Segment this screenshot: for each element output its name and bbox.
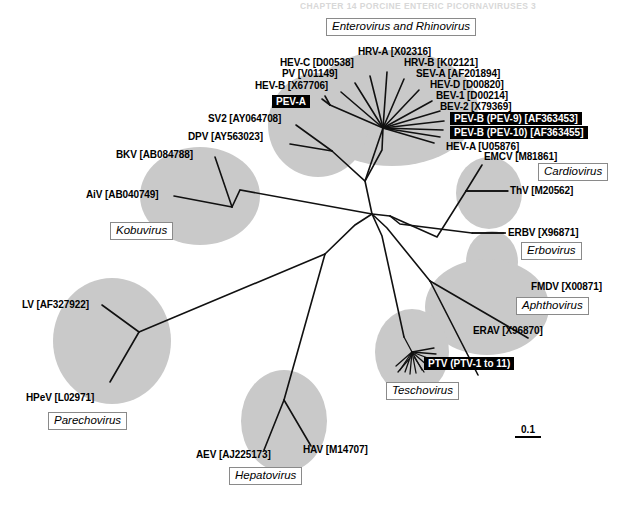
taxon-label-aev: AEV [AJ225173] (196, 449, 271, 460)
taxon-label-bev-2: BEV-2 [X79369] (440, 101, 511, 112)
branch-lower-to-parechovirus (139, 254, 325, 332)
genus-label-enterovirus-rhinovirus: Enterovirus and Rhinovirus (326, 18, 476, 36)
genus-label-erbovirus: Erbovirus (521, 242, 582, 260)
taxon-label-lv: LV [AF327922] (22, 299, 89, 310)
taxon-label-erbv: ERBV [X96871] (508, 227, 578, 238)
taxon-label-ptv: PTV (PTV-1 to 11) (424, 357, 514, 370)
taxon-label-thv: ThV [M20562] (510, 185, 573, 196)
taxon-label-fmdv: FMDV [X00871] (531, 281, 602, 292)
taxon-label-emcv: EMCV [M81861] (484, 151, 557, 162)
branch-center-to-lower (325, 214, 372, 254)
genus-label-cardiovirus: Cardiovirus (538, 163, 608, 181)
taxon-label-pev-b9: PEV-B (PEV-9) [AF363453] (450, 112, 582, 125)
taxon-label-hav: HAV [M14707] (303, 444, 368, 455)
taxon-label-pev-a: PEV-A (272, 95, 310, 108)
taxon-label-hrv-a: HRV-A [X02316] (358, 46, 431, 57)
genus-label-kobuvirus: Kobuvirus (110, 222, 173, 240)
genus-label-teschovirus: Teschovirus (386, 382, 459, 400)
scale-bar-value: 0.1 (508, 424, 548, 435)
taxon-label-pev-b10: PEV-B (PEV-10) [AF363455] (450, 126, 588, 139)
scale-bar-line (515, 436, 541, 438)
taxon-label-hev-b: HEV-B [X67706] (255, 80, 328, 91)
genus-label-parechovirus: Parechovirus (48, 412, 127, 430)
taxon-label-hpev: HPeV [L02971] (26, 392, 94, 403)
branch-erbovirus-stem (390, 216, 472, 233)
taxon-label-pv: PV [V01149] (282, 68, 338, 79)
cluster-ellipse-parechovirus (53, 278, 171, 404)
taxon-label-bev-1: BEV-1 [D00214] (436, 90, 508, 101)
taxon-label-hev-c: HEV-C [D00538] (280, 57, 354, 68)
genus-label-aphthovirus: Aphthovirus (516, 297, 589, 315)
taxon-label-hev-d: HEV-D [D00820] (430, 79, 504, 90)
taxon-label-dpv: DPV [AY563023] (188, 131, 263, 142)
taxon-label-erav: ERAV [X96870] (473, 325, 543, 336)
genus-label-hepatovirus: Hepatovirus (229, 467, 302, 485)
scale-bar: 0.1 (508, 424, 548, 438)
taxon-label-sev-a: SEV-A [AF201894] (416, 68, 500, 79)
taxon-label-bkv: BKV [AB084788] (116, 149, 193, 160)
branch-center-to-teschovirus (372, 214, 404, 337)
taxon-label-aiv: AiV [AB040749] (86, 189, 159, 200)
taxon-label-sv2: SV2 [AY064708] (208, 113, 281, 124)
taxon-label-hrv-b: HRV-B [K02121] (404, 57, 478, 68)
phylogenetic-tree-figure: CHAPTER 14 PORCINE ENTERIC PICORNAVIRUSE… (0, 0, 633, 512)
